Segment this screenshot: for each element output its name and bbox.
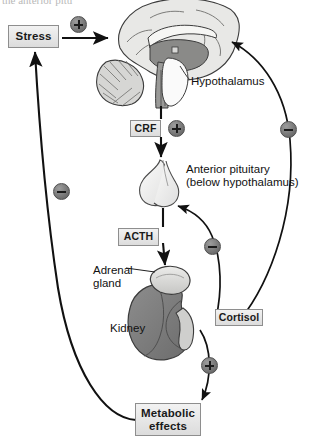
minus-sign-icon-metabolic-to-stress — [53, 183, 70, 200]
plus-sign-icon-stress-to-brain — [70, 16, 87, 33]
metabolic-line-2: effects — [149, 420, 187, 432]
node-stress[interactable]: Stress — [8, 25, 59, 48]
label-anterior-pituitary: Anterior pituitary(below hypothalamus) — [186, 163, 299, 189]
adrenal-line-1: Adrenal — [93, 264, 133, 276]
adrenal-line-2: gland — [93, 277, 121, 289]
arrow-cortisol-to-pituitary — [178, 206, 220, 318]
pituitary-line-1: Anterior pituitary — [186, 163, 270, 175]
node-cortisol[interactable]: Cortisol — [215, 309, 263, 326]
plus-sign-icon-crf-to-pituitary — [168, 120, 185, 137]
diagram-canvas: the anterior pitu — [0, 0, 310, 442]
node-metabolic-effects[interactable]: Metabolic effects — [135, 403, 201, 436]
arrow-acth-to-adrenal — [163, 243, 165, 265]
label-kidney: Kidney — [110, 322, 145, 335]
pituitary-line-2: (below hypothalamus) — [186, 176, 299, 188]
node-crf[interactable]: CRF — [130, 120, 161, 137]
metabolic-line-1: Metabolic — [141, 407, 195, 419]
minus-sign-icon-cortisol-to-hypothalamus — [280, 121, 297, 138]
label-adrenal-gland: Adrenalgland — [93, 264, 133, 290]
minus-sign-icon-cortisol-to-pituitary — [204, 238, 221, 255]
label-hypothalamus: Hypothalamus — [191, 75, 265, 88]
arrow-layer — [0, 0, 310, 442]
page-header-text-fragment: the anterior pitu — [2, 0, 162, 6]
plus-sign-icon-cortisol-to-metabolic — [201, 357, 218, 374]
node-acth[interactable]: ACTH — [118, 228, 159, 246]
